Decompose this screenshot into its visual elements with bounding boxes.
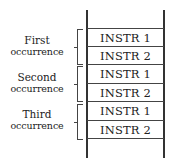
group-label-third: Third occurrence <box>0 108 74 132</box>
instruction-cell: INSTR 2 <box>88 121 163 138</box>
group-label-first: First occurrence <box>0 34 74 58</box>
label-line: occurrence <box>0 83 74 95</box>
brace-icon <box>77 66 83 102</box>
instruction-cell: INSTR 2 <box>88 84 163 101</box>
instruction-cell: INSTR 2 <box>88 47 163 64</box>
label-line: First <box>0 34 74 46</box>
instruction-cell: INSTR 1 <box>88 102 163 119</box>
divider <box>87 138 164 139</box>
label-line: Second <box>0 71 74 83</box>
instruction-cell: INSTR 1 <box>88 29 163 46</box>
instruction-cell: INSTR 1 <box>88 65 163 82</box>
brace-icon <box>77 104 83 140</box>
label-line: occurrence <box>0 46 74 58</box>
group-label-second: Second occurrence <box>0 71 74 95</box>
label-line: Third <box>0 108 74 120</box>
label-line: occurrence <box>0 120 74 132</box>
brace-icon <box>77 29 83 65</box>
right-border <box>163 10 165 158</box>
